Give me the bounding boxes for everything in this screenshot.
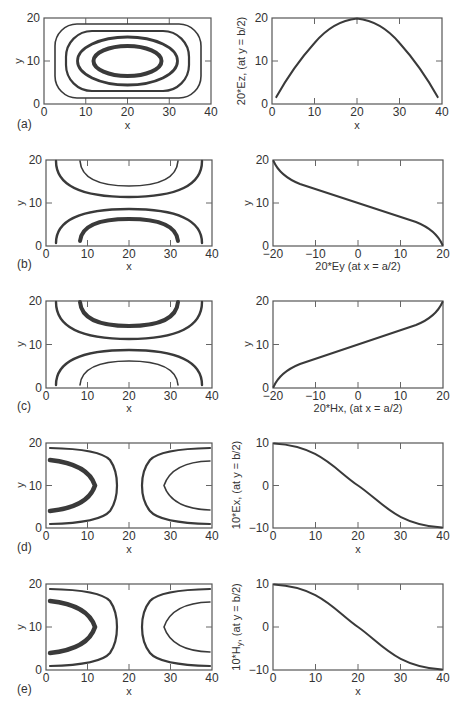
svg-text:0: 0 xyxy=(270,529,277,543)
panel-label: (b) xyxy=(17,257,32,271)
svg-text:0: 0 xyxy=(35,521,42,535)
panel-c-left: 20 10 0 0 10 20 30 40 x y (c) xyxy=(14,294,219,414)
svg-text:20: 20 xyxy=(256,294,270,308)
svg-text:10: 10 xyxy=(308,105,322,119)
svg-text:10: 10 xyxy=(29,620,43,634)
svg-text:10: 10 xyxy=(309,529,323,543)
svg-text:20: 20 xyxy=(122,529,136,543)
svg-text:10: 10 xyxy=(256,436,270,450)
svg-text:20: 20 xyxy=(122,247,136,261)
svg-text:x: x xyxy=(126,543,132,555)
svg-text:30: 30 xyxy=(164,529,178,543)
svg-text:10*Hy, (at y = b/2): 10*Hy, (at y = b/2) xyxy=(230,583,244,670)
svg-text:0: 0 xyxy=(355,247,362,261)
svg-text:−20: −20 xyxy=(263,389,284,403)
svg-text:10: 10 xyxy=(394,389,408,403)
panel-label: (e) xyxy=(17,682,32,696)
svg-text:−10: −10 xyxy=(249,663,270,677)
svg-text:20: 20 xyxy=(29,436,43,450)
svg-text:30: 30 xyxy=(163,105,177,119)
svg-text:20: 20 xyxy=(436,389,450,403)
svg-text:20*Ez, (at y = b/2): 20*Ez, (at y = b/2) xyxy=(235,17,247,105)
panel-c-right: 20 10 0 −20 −10 0 10 20 20*Hx, (at x = a… xyxy=(241,294,450,414)
panel-e-right: 10 0 −10 0 10 20 30 40 x 10*Hy, (at y = … xyxy=(230,577,450,697)
svg-text:10: 10 xyxy=(29,196,43,210)
panel-label: (d) xyxy=(17,540,32,554)
svg-text:x: x xyxy=(126,685,132,697)
svg-text:−20: −20 xyxy=(263,247,284,261)
svg-text:20*Ey (at x = a/2): 20*Ey (at x = a/2) xyxy=(315,260,400,272)
panel-label: (c) xyxy=(17,399,31,413)
svg-text:0: 0 xyxy=(355,389,362,403)
svg-text:10: 10 xyxy=(309,671,323,685)
svg-text:x: x xyxy=(125,119,131,131)
svg-text:y: y xyxy=(14,341,26,347)
svg-text:0: 0 xyxy=(270,671,277,685)
svg-text:10: 10 xyxy=(81,529,95,543)
figure-canvas: 20 10 0 0 10 20 30 40 x y (a) 20 10 0 0 … xyxy=(0,0,465,710)
svg-text:−10: −10 xyxy=(305,247,326,261)
svg-text:10: 10 xyxy=(81,247,95,261)
svg-text:10: 10 xyxy=(81,389,95,403)
svg-text:20: 20 xyxy=(122,671,136,685)
svg-text:−10: −10 xyxy=(305,389,326,403)
svg-text:30: 30 xyxy=(164,247,178,261)
svg-text:y: y xyxy=(14,482,26,488)
svg-text:20: 20 xyxy=(29,577,43,591)
svg-text:20: 20 xyxy=(256,153,270,167)
svg-text:10: 10 xyxy=(256,338,270,352)
svg-text:x: x xyxy=(126,402,132,414)
svg-text:20*Hx, (at x = a/2): 20*Hx, (at x = a/2) xyxy=(314,402,403,414)
svg-text:40: 40 xyxy=(205,247,219,261)
svg-text:40: 40 xyxy=(205,529,219,543)
svg-text:40: 40 xyxy=(436,671,450,685)
svg-text:0: 0 xyxy=(43,671,50,685)
svg-text:0: 0 xyxy=(41,105,48,119)
svg-text:10: 10 xyxy=(79,105,93,119)
svg-text:0: 0 xyxy=(43,247,50,261)
svg-text:40: 40 xyxy=(435,105,449,119)
svg-text:10: 10 xyxy=(256,196,270,210)
svg-text:20: 20 xyxy=(122,389,136,403)
svg-text:30: 30 xyxy=(394,529,408,543)
svg-text:0: 0 xyxy=(269,105,276,119)
svg-text:x: x xyxy=(355,543,361,555)
svg-text:10: 10 xyxy=(394,247,408,261)
svg-text:0: 0 xyxy=(262,620,269,634)
panel-a-left: 20 10 0 0 10 20 30 40 x y (a) xyxy=(12,11,218,131)
y-tick-0: 0 xyxy=(33,97,40,111)
svg-text:30: 30 xyxy=(393,105,407,119)
svg-text:20: 20 xyxy=(350,105,364,119)
svg-text:0: 0 xyxy=(43,529,50,543)
panel-a-right: 20 10 0 0 10 20 30 40 x 20*Ez, (at y = b… xyxy=(235,11,449,131)
svg-text:40: 40 xyxy=(204,105,218,119)
svg-text:20: 20 xyxy=(29,153,43,167)
svg-text:y: y xyxy=(241,341,253,347)
svg-text:0: 0 xyxy=(35,663,42,677)
panel-d-right: 10 0 −10 0 10 20 30 40 x 10*Ex, (at y = … xyxy=(230,436,450,555)
svg-text:10: 10 xyxy=(255,54,269,68)
y-tick-20: 20 xyxy=(27,11,41,25)
svg-text:0: 0 xyxy=(261,97,268,111)
panel-label: (a) xyxy=(17,117,32,131)
svg-text:20: 20 xyxy=(351,671,365,685)
svg-text:0: 0 xyxy=(35,381,42,395)
svg-text:10: 10 xyxy=(81,671,95,685)
panel-b-left: 20 10 0 0 10 20 30 40 x y (b) xyxy=(14,153,219,272)
svg-text:10*Ex, (at y = b/2): 10*Ex, (at y = b/2) xyxy=(230,441,242,529)
svg-text:0: 0 xyxy=(35,239,42,253)
svg-text:y: y xyxy=(12,58,24,64)
svg-text:30: 30 xyxy=(164,389,178,403)
svg-text:0: 0 xyxy=(262,479,269,493)
svg-text:40: 40 xyxy=(436,529,450,543)
svg-text:10: 10 xyxy=(256,577,270,591)
svg-text:20: 20 xyxy=(255,11,269,25)
y-tick-10: 10 xyxy=(27,54,41,68)
svg-text:10: 10 xyxy=(29,338,43,352)
svg-text:x: x xyxy=(126,260,132,272)
svg-text:x: x xyxy=(354,119,360,131)
panel-b-right: 20 10 0 −20 −10 0 10 20 20*Ey (at x = a/… xyxy=(241,153,450,272)
svg-text:20: 20 xyxy=(351,529,365,543)
svg-text:20: 20 xyxy=(436,247,450,261)
svg-text:20: 20 xyxy=(121,105,135,119)
